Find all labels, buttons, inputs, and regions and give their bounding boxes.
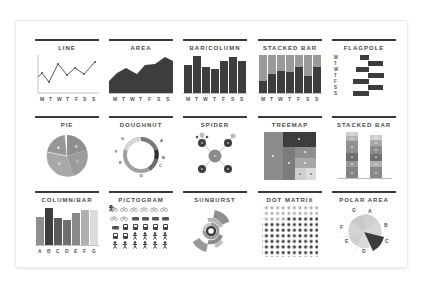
svg-text:T: T — [49, 96, 52, 102]
svg-text:M: M — [186, 96, 190, 102]
svg-text:F: F — [83, 248, 86, 254]
cell-title: DOT MATRIX — [258, 197, 322, 205]
svg-text:W: W — [57, 96, 62, 102]
dot-matrix-chart — [258, 205, 322, 257]
divider-rule — [183, 191, 247, 193]
treemap-chart — [258, 130, 322, 182]
svg-text:W: W — [278, 96, 283, 102]
cell-stacked-bar: STACKED BAR MTWTFSS — [258, 39, 322, 103]
cell-pie: PIE ABCD — [35, 116, 99, 182]
svg-text:A: A — [57, 145, 60, 150]
divider-rule — [332, 191, 396, 193]
svg-text:D: D — [58, 161, 61, 166]
svg-text:B: B — [384, 222, 388, 228]
svg-text:S: S — [306, 96, 310, 102]
svg-text:A: A — [368, 208, 372, 214]
svg-text:B: B — [47, 248, 51, 254]
divider-rule — [183, 116, 247, 118]
svg-text:W: W — [130, 96, 135, 102]
divider-rule — [35, 39, 99, 41]
svg-text:T: T — [334, 73, 337, 78]
cell-title: FLAGPOLE — [332, 45, 396, 53]
divider-rule — [109, 116, 173, 118]
svg-text:S: S — [240, 96, 244, 102]
svg-text:M: M — [334, 55, 338, 60]
svg-text:T: T — [334, 61, 337, 66]
svg-text:S: S — [157, 96, 161, 102]
cell-stacked-bar-2: STACKED BAR — [332, 116, 396, 182]
svg-text:D: D — [65, 248, 69, 254]
svg-text:G: G — [352, 207, 356, 213]
svg-text:G: G — [121, 136, 124, 141]
divider-rule — [258, 116, 322, 118]
divider-rule — [332, 39, 396, 41]
svg-text:T: T — [213, 96, 216, 102]
svg-text:T: T — [66, 96, 69, 102]
divider-rule — [183, 39, 247, 41]
cell-line: LINE MTWTFSS — [35, 39, 99, 103]
stacked-bar-chart-2 — [332, 130, 396, 182]
svg-text:F: F — [115, 149, 118, 154]
cell-column-bar: COLUMN/BAR ABCDEFG — [35, 191, 99, 257]
cell-title: PICTOGRAM — [109, 197, 173, 205]
cell-title: SUNBURST — [183, 197, 247, 205]
svg-text:S: S — [315, 96, 319, 102]
cell-title: SPIDER — [183, 122, 247, 130]
svg-text:B: B — [162, 155, 165, 160]
cell-bar-column: BAR/COLUMN MTWTFSS — [183, 39, 247, 103]
svg-text:T: T — [139, 96, 142, 102]
svg-text:M: M — [113, 96, 117, 102]
divider-rule — [109, 191, 173, 193]
stacked-bar-chart: MTWTFSS — [258, 53, 322, 103]
svg-text:F: F — [340, 224, 343, 230]
svg-text:E: E — [345, 238, 349, 244]
svg-text:S: S — [334, 91, 337, 96]
svg-text:F: F — [222, 96, 225, 102]
pie-chart: ABCD — [35, 130, 99, 182]
svg-text:W: W — [334, 67, 339, 72]
cell-title: COLUMN/BAR — [35, 197, 99, 205]
cell-spider: SPIDER — [183, 116, 247, 182]
svg-text:S: S — [83, 96, 87, 102]
area-chart: MTWTFSS — [109, 53, 173, 103]
bar-column-chart: MTWTFSS — [183, 53, 247, 103]
doughnut-chart: GABCDEF — [109, 130, 173, 182]
cell-sunburst: SUNBURST — [183, 191, 247, 257]
svg-text:D: D — [362, 248, 366, 254]
divider-rule — [35, 191, 99, 193]
svg-text:S: S — [231, 96, 235, 102]
svg-text:S: S — [334, 85, 337, 90]
cell-title: POLAR AREA — [332, 197, 396, 205]
spider-chart — [183, 130, 247, 182]
svg-text:C: C — [56, 248, 60, 254]
cell-area: AREA MTWTFSS — [109, 39, 173, 103]
svg-text:S: S — [92, 96, 96, 102]
sunburst-chart — [183, 205, 247, 257]
svg-text:W: W — [203, 96, 208, 102]
svg-text:F: F — [75, 96, 78, 102]
line-chart: MTWTFSS — [35, 53, 99, 103]
svg-text:E: E — [119, 160, 122, 165]
svg-text:C: C — [159, 163, 162, 168]
cell-flagpole: FLAGPOLE MTWTFSS — [332, 39, 396, 103]
svg-text:M: M — [261, 96, 265, 102]
cell-title: BAR/COLUMN — [183, 45, 247, 53]
divider-rule — [258, 39, 322, 41]
svg-text:C: C — [385, 238, 389, 244]
svg-text:T: T — [288, 96, 291, 102]
svg-text:F: F — [334, 79, 337, 84]
cell-doughnut: DOUGHNUT GABCDEF — [109, 116, 173, 182]
divider-rule — [258, 191, 322, 193]
divider-rule — [332, 116, 396, 118]
cell-dot-matrix: DOT MATRIX — [258, 191, 322, 257]
svg-text:G: G — [92, 248, 96, 254]
svg-text:C: C — [76, 159, 79, 164]
svg-text:A: A — [160, 138, 163, 143]
svg-text:F: F — [297, 96, 300, 102]
divider-rule — [109, 39, 173, 41]
cell-title: TREEMAP — [258, 122, 322, 130]
svg-text:T: T — [122, 96, 125, 102]
cell-title: AREA — [109, 45, 173, 53]
svg-text:A: A — [38, 248, 42, 254]
cell-title: STACKED BAR — [258, 45, 322, 53]
